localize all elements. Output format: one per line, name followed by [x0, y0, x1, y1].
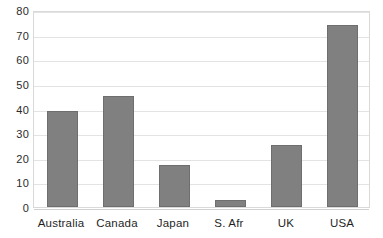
bar[interactable] [327, 25, 358, 207]
bar[interactable] [215, 200, 246, 207]
y-axis: 01020304050607080 [0, 11, 29, 208]
x-tick-label: Japan [145, 217, 201, 230]
y-tick-label: 50 [0, 80, 29, 91]
x-tick-label: S. Afr [201, 217, 257, 230]
y-tick-label: 40 [0, 105, 29, 116]
y-tick-label: 0 [0, 203, 29, 214]
bars-layer [34, 12, 369, 207]
x-tick-label: Canada [89, 217, 145, 230]
y-tick-label: 60 [0, 55, 29, 66]
bar-chart: 01020304050607080 AustraliaCanadaJapanS.… [0, 0, 383, 238]
plot-area [33, 11, 370, 208]
y-tick-label: 20 [0, 154, 29, 165]
x-tick-label: Australia [33, 217, 89, 230]
bar[interactable] [271, 145, 302, 207]
bar[interactable] [103, 96, 134, 207]
y-tick-label: 30 [0, 129, 29, 140]
bar[interactable] [159, 165, 190, 207]
x-tick-label: UK [258, 217, 314, 230]
bar[interactable] [47, 111, 78, 207]
y-tick-label: 10 [0, 178, 29, 189]
y-tick-label: 70 [0, 31, 29, 42]
y-tick-label: 80 [0, 6, 29, 17]
x-axis: AustraliaCanadaJapanS. AfrUKUSA [33, 208, 370, 238]
x-tick-label: USA [314, 217, 370, 230]
